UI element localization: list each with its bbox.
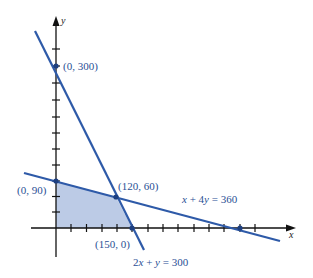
y-axis-arrow-icon: [53, 16, 60, 26]
point-120-60: [113, 194, 118, 199]
point-0-90: [53, 178, 58, 183]
label-point-0-300: (0, 300): [63, 60, 98, 73]
label-point-120-60: (120, 60): [118, 180, 159, 193]
x-axis-label: x: [288, 229, 294, 240]
y-axis-label: y: [60, 15, 66, 26]
point-0-300: [53, 63, 58, 68]
label-point-0-90: (0, 90): [17, 184, 47, 197]
label-2x-plus-y-300: 2x + y = 300: [133, 256, 189, 268]
point-150-0: [129, 225, 134, 230]
point-360-0: [237, 225, 242, 230]
lp-diagram: y x (0, 300) (0, 90) (120, 60) (150, 0) …: [0, 0, 313, 278]
label-point-150-0: (150, 0): [95, 238, 130, 251]
label-x-plus-4y-360: x + 4y = 360: [181, 193, 238, 205]
